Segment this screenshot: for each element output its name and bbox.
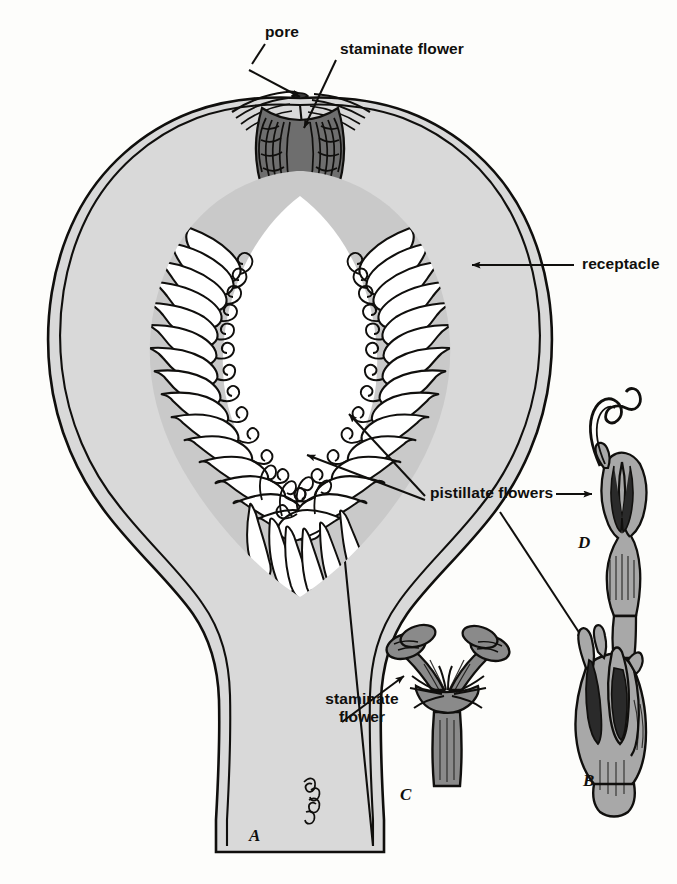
label-pistillate-flowers: pistillate flowers: [430, 484, 553, 502]
figure-letter-b: B: [583, 771, 594, 791]
figure-letter-d: D: [578, 533, 590, 553]
diagram-canvas: [0, 0, 677, 884]
label-pore: pore: [265, 23, 299, 41]
figure-letter-c: C: [400, 785, 411, 805]
label-staminate-flower-bottom-line1: staminate: [325, 690, 398, 707]
label-staminate-flower-bottom-line2: flower: [339, 708, 385, 725]
pore-leader-line: [252, 44, 265, 64]
figure-letter-a: A: [249, 826, 260, 846]
pistillate-leader-line-b: [500, 512, 584, 640]
botanical-figure: pore staminate flower receptacle pistill…: [0, 0, 677, 884]
figure-d-pistillate-long-style: [590, 389, 646, 658]
label-staminate-flower-bottom: staminate flower: [310, 690, 414, 727]
label-receptacle: receptacle: [582, 255, 660, 273]
syconium-figure-a: [48, 92, 552, 852]
label-staminate-flower-top: staminate flower: [340, 40, 464, 58]
